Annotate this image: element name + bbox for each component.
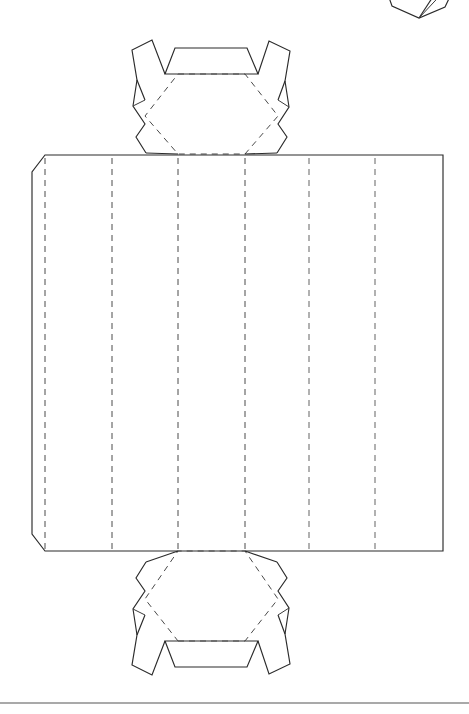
page-background [0,0,469,714]
hexagonal-prism-net-figure: Hexagonal Prism Net Template [0,0,469,714]
